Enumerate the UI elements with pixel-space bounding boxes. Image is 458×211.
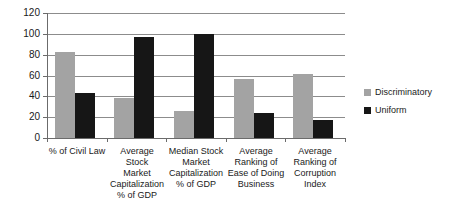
x-axis-tick bbox=[226, 138, 227, 142]
category-label-line: Capitalization bbox=[104, 179, 170, 190]
category-label-line: Stock bbox=[104, 157, 170, 168]
category-label-line: Average bbox=[282, 146, 348, 157]
bar-chart: 020406080100120 % of Civil LawAverageSto… bbox=[0, 0, 458, 211]
x-axis-tick bbox=[345, 138, 346, 142]
category-label-line: Average bbox=[104, 146, 170, 157]
category-label-3: AverageRanking ofEase of DoingBusiness bbox=[223, 146, 289, 190]
y-axis-tick-label: 80 bbox=[0, 50, 40, 60]
chart-legend: DiscriminatoryUniform bbox=[364, 88, 432, 124]
category-label-line: Median Stock bbox=[163, 146, 229, 157]
bar-discriminatory-0 bbox=[55, 52, 75, 138]
category-label-line: Business bbox=[223, 179, 289, 190]
category-label-line: Corruption bbox=[282, 168, 348, 179]
category-label-line: Average bbox=[223, 146, 289, 157]
x-axis-tick bbox=[107, 138, 108, 142]
y-axis-tick-label: 40 bbox=[0, 91, 40, 101]
plot-area bbox=[47, 13, 345, 138]
y-axis-tick-label: 0 bbox=[0, 133, 40, 143]
category-label-line: Ranking of bbox=[223, 157, 289, 168]
bar-uniform-2 bbox=[194, 34, 214, 138]
bar-uniform-3 bbox=[254, 113, 274, 138]
legend-item-discriminatory[interactable]: Discriminatory bbox=[364, 88, 432, 97]
bar-uniform-4 bbox=[313, 120, 333, 138]
y-axis-tick-label: 100 bbox=[0, 29, 40, 39]
x-axis-tick bbox=[285, 138, 286, 142]
category-label-line: Market bbox=[104, 168, 170, 179]
category-label-line: Ranking of bbox=[282, 157, 348, 168]
category-label-1: AverageStockMarketCapitalization% of GDP bbox=[104, 146, 170, 201]
y-axis-tick-label: 60 bbox=[0, 71, 40, 81]
bar-uniform-1 bbox=[134, 37, 154, 138]
y-axis-tick-label: 120 bbox=[0, 8, 40, 18]
legend-swatch-icon bbox=[364, 89, 371, 96]
legend-label: Discriminatory bbox=[375, 88, 432, 97]
category-label-line: Market bbox=[163, 157, 229, 168]
legend-swatch-icon bbox=[364, 107, 371, 114]
bar-discriminatory-1 bbox=[114, 98, 134, 138]
category-label-line: % of Civil Law bbox=[44, 146, 110, 157]
category-label-0: % of Civil Law bbox=[44, 146, 110, 157]
y-axis-tick-label: 20 bbox=[0, 112, 40, 122]
bar-discriminatory-3 bbox=[234, 79, 254, 138]
category-label-line: Capitalization bbox=[163, 168, 229, 179]
category-label-4: AverageRanking ofCorruptionIndex bbox=[282, 146, 348, 190]
bar-uniform-0 bbox=[75, 93, 95, 138]
legend-item-uniform[interactable]: Uniform bbox=[364, 106, 432, 115]
category-label-line: % of GDP bbox=[104, 190, 170, 201]
legend-label: Uniform bbox=[375, 106, 407, 115]
category-label-2: Median StockMarketCapitalization% of GDP bbox=[163, 146, 229, 190]
category-label-line: Ease of Doing bbox=[223, 168, 289, 179]
x-axis-tick-origin bbox=[47, 138, 48, 142]
gridline bbox=[47, 138, 345, 139]
category-label-line: Index bbox=[282, 179, 348, 190]
category-label-line: % of GDP bbox=[163, 179, 229, 190]
bar-discriminatory-2 bbox=[174, 111, 194, 138]
bar-discriminatory-4 bbox=[293, 74, 313, 138]
x-axis-tick bbox=[166, 138, 167, 142]
